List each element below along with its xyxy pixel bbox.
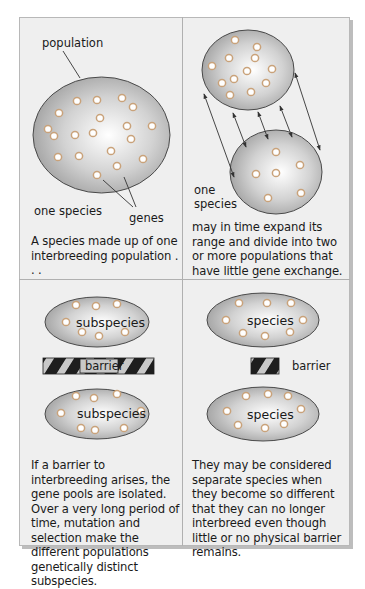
one-label: one (194, 183, 215, 197)
subspecies-label-lower: subspecies (77, 406, 146, 421)
barrier-wall: barrier (43, 358, 154, 374)
barrier-wall-small (251, 358, 279, 374)
species-label-lower: species (247, 407, 294, 422)
panel-3-illustration: subspecies barrier subspecies (43, 297, 154, 439)
barrier-label: barrier (292, 359, 331, 373)
one-species-label: one species (34, 204, 102, 218)
panel-3-caption: If a barrier to interbreeding arises, th… (31, 458, 183, 589)
population-label: population (42, 36, 103, 50)
panel-4-illustration: species barrier species (207, 293, 331, 441)
species-label-upper: species (247, 313, 294, 328)
panel-2-illustration: one species (194, 30, 322, 214)
subspecies-label-upper: subspecies (76, 315, 145, 330)
panel-2-caption: may in time expand its range and divide … (192, 220, 347, 278)
panel-1-caption: A species made up of one interbreeding p… (31, 234, 179, 278)
panel-1-illustration: population one species genes (33, 36, 170, 225)
panel-4-caption: They may be considered separate species … (192, 458, 342, 560)
population-leader-line (63, 51, 80, 78)
barrier-label: barrier (85, 359, 124, 373)
species-label: species (194, 197, 237, 211)
genes-label: genes (129, 211, 164, 225)
